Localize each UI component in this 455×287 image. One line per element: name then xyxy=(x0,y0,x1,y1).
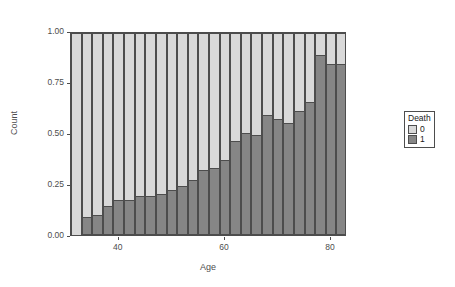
bar-segment-death-0 xyxy=(156,33,167,196)
bar-column xyxy=(103,33,114,235)
bar-column xyxy=(315,33,326,235)
y-axis-ticks: 0.000.250.500.751.00 xyxy=(26,0,70,287)
bar-segment-death-0 xyxy=(82,33,93,219)
bar-column xyxy=(124,33,135,235)
bar-segment-death-0 xyxy=(177,33,188,188)
bar-column xyxy=(177,33,188,235)
bar-column xyxy=(220,33,231,235)
bar-segment-death-1 xyxy=(209,168,220,235)
bar-segment-death-0 xyxy=(188,33,199,182)
x-tick-mark xyxy=(118,237,119,240)
bar-segment-death-0 xyxy=(92,33,103,217)
legend-swatch-icon xyxy=(408,125,417,134)
bar-segment-death-1 xyxy=(103,206,114,235)
bar-segment-death-0 xyxy=(305,33,316,104)
bar-segment-death-1 xyxy=(294,111,305,235)
bar-column xyxy=(82,33,93,235)
bar-segment-death-0 xyxy=(113,33,124,202)
bar-column xyxy=(71,33,82,235)
bar-segment-death-0 xyxy=(315,33,326,57)
bar-segment-death-0 xyxy=(124,33,135,202)
bar-segment-death-0 xyxy=(103,33,114,208)
legend-entries: 01 xyxy=(408,125,431,144)
bar-segment-death-0 xyxy=(145,33,156,198)
bar-segment-death-1 xyxy=(113,200,124,235)
bar-column xyxy=(336,33,346,235)
bar-segment-death-1 xyxy=(326,64,337,235)
legend-title: Death xyxy=(408,114,431,124)
legend-item[interactable]: 0 xyxy=(408,125,431,134)
bar-column xyxy=(251,33,262,235)
bar-segment-death-1 xyxy=(145,196,156,235)
bar-segment-death-1 xyxy=(230,141,241,235)
bar-segment-death-1 xyxy=(177,186,188,235)
x-tick-label: 40 xyxy=(103,243,133,252)
bar-column xyxy=(113,33,124,235)
bar-segment-death-1 xyxy=(188,180,199,235)
bar-column xyxy=(294,33,305,235)
bar-segment-death-0 xyxy=(71,33,82,236)
x-tick-label: 80 xyxy=(315,243,345,252)
y-tick-label: 0.00 xyxy=(30,231,64,240)
legend-item[interactable]: 1 xyxy=(408,135,431,144)
x-axis-title: Age xyxy=(70,262,346,272)
bar-segment-death-0 xyxy=(283,33,294,125)
bar-column xyxy=(167,33,178,235)
bar-column xyxy=(305,33,316,235)
bar-segment-death-0 xyxy=(294,33,305,113)
y-tick-label: 0.50 xyxy=(30,129,64,138)
bar-segment-death-0 xyxy=(251,33,262,137)
bar-column xyxy=(273,33,284,235)
bar-column xyxy=(92,33,103,235)
bar-segment-death-0 xyxy=(273,33,284,121)
bar-segment-death-1 xyxy=(241,133,252,235)
y-tick-label: 0.75 xyxy=(30,78,64,87)
bar-segment-death-1 xyxy=(315,55,326,235)
bar-segment-death-1 xyxy=(135,196,146,235)
bar-column xyxy=(135,33,146,235)
bar-column xyxy=(145,33,156,235)
bar-column xyxy=(198,33,209,235)
bar-column xyxy=(156,33,167,235)
bar-segment-death-1 xyxy=(220,160,231,235)
y-tick-label: 0.25 xyxy=(30,180,64,189)
bar-segment-death-1 xyxy=(198,170,209,235)
bar-segment-death-0 xyxy=(241,33,252,135)
y-axis-title: Count xyxy=(9,93,19,153)
bar-column xyxy=(241,33,252,235)
bar-segment-death-0 xyxy=(336,33,346,66)
bar-segment-death-0 xyxy=(135,33,146,198)
bar-column xyxy=(188,33,199,235)
legend-item-label: 1 xyxy=(420,135,425,144)
legend: Death 01 xyxy=(404,111,435,148)
bar-segment-death-1 xyxy=(92,215,103,235)
bar-segment-death-1 xyxy=(156,194,167,235)
bar-segment-death-1 xyxy=(336,64,346,235)
bar-segment-death-1 xyxy=(82,217,93,235)
chart-figure: Count 0.000.250.500.751.00 406080 Age De… xyxy=(0,0,455,287)
bar-segment-death-1 xyxy=(124,200,135,235)
bar-segment-death-1 xyxy=(262,115,273,235)
plot-panel xyxy=(70,32,346,236)
bar-segment-death-0 xyxy=(220,33,231,162)
x-tick-mark xyxy=(330,237,331,240)
bar-segment-death-1 xyxy=(283,123,294,235)
legend-item-label: 0 xyxy=(420,125,425,134)
y-tick-mark xyxy=(67,236,70,237)
y-tick-label: 1.00 xyxy=(30,27,64,36)
x-tick-mark xyxy=(224,237,225,240)
bar-segment-death-1 xyxy=(167,190,178,235)
bar-segment-death-1 xyxy=(305,102,316,235)
bar-segment-death-1 xyxy=(251,135,262,235)
bar-column xyxy=(326,33,337,235)
bar-column xyxy=(230,33,241,235)
bar-column xyxy=(209,33,220,235)
bar-segment-death-0 xyxy=(167,33,178,192)
bar-column xyxy=(283,33,294,235)
bar-segment-death-0 xyxy=(209,33,220,170)
x-tick-label: 60 xyxy=(209,243,239,252)
bar-segment-death-0 xyxy=(230,33,241,143)
bar-segment-death-0 xyxy=(326,33,337,66)
bar-segment-death-1 xyxy=(273,119,284,235)
bar-segment-death-0 xyxy=(262,33,273,117)
